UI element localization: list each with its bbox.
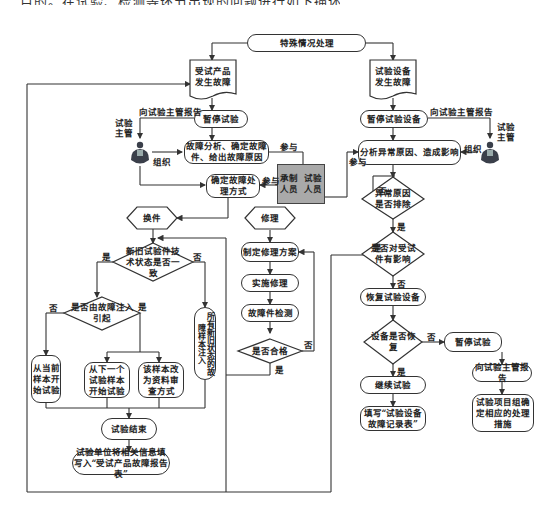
- supervisor-icon-right: [481, 142, 499, 164]
- pause-test-node: 暂停试验: [194, 110, 248, 128]
- label-supervisor-left: 试验 主管: [115, 118, 133, 138]
- fault-injection-diamond: 是否由故障注入引起: [70, 302, 134, 324]
- label-organize-right: 组织: [464, 144, 482, 154]
- repair-hex-label: 修理: [255, 207, 285, 229]
- label-no-qualified: 否: [304, 340, 313, 350]
- start-node: 特殊情况处理: [247, 34, 366, 52]
- pause-equip-node: 暂停试验设备: [360, 110, 428, 128]
- label-yes-affects: 是: [373, 243, 382, 253]
- label-report-left: 向试验主管报告: [139, 107, 202, 117]
- fault-analysis-node: 故障分析、确定故障件、给出故障原因: [184, 140, 269, 164]
- participants-box: 承制 人员 试验 人员: [277, 164, 325, 204]
- label-yes-restored: 是: [397, 367, 406, 377]
- determine-method-node: 确定故障处理方式: [206, 174, 260, 198]
- label-yes-qualified: 是: [275, 365, 284, 375]
- label-no-tech: 否: [193, 252, 202, 262]
- test-end-node: 试验结束: [101, 418, 157, 440]
- restore-equip-node: 恢复试验设备: [360, 288, 426, 306]
- replace-hex-label: 换件: [137, 207, 167, 229]
- from-current-node: 从当前样本开始试验: [31, 355, 61, 403]
- label-participate-1: 参与: [280, 142, 298, 152]
- label-yes-abnormal: 是: [397, 222, 406, 232]
- fill-equip-log-node: 填写“试验设备故障记录表”: [360, 406, 426, 431]
- label-yes-tech: 是: [102, 252, 111, 262]
- from-next-node: 从下一个试验样本开始试验: [84, 362, 130, 398]
- label-supervisor-right: 试验 主管: [497, 122, 515, 142]
- qualified-diamond: 是否合格: [246, 345, 294, 357]
- label-participate-3: 参与: [349, 157, 367, 167]
- test-staff: 试验 人员: [304, 173, 322, 195]
- manufacturer-staff: 承制 人员: [280, 173, 298, 195]
- fault-check-node: 故障件检测: [241, 304, 299, 322]
- do-repair-node: 实施修理: [241, 274, 299, 292]
- tech-state-diamond: 新旧试验件技术状态是否一致: [123, 250, 183, 274]
- report-supervisor-node: 向试验主管报告: [472, 364, 532, 382]
- pause-test-2-node: 暂停试验: [444, 332, 502, 352]
- product-fault-doc: 受试产品发生故障: [191, 62, 235, 92]
- label-no-restored: 否: [427, 332, 436, 342]
- analyze-abnormal-node: 分析异常原因、造成影响: [358, 140, 461, 165]
- label-organize-left: 组织: [153, 157, 171, 167]
- supervisor-icon-left: [131, 142, 149, 164]
- fill-report-node: 试验单位将相关信息填写入“受试产品故障报告表”: [72, 451, 170, 475]
- to-review-node: 该样本改为资料审查方式: [138, 362, 184, 398]
- label-report-right: 向试验主管报告: [430, 107, 493, 117]
- all-inject-node: 所有新旧状态的故障样本注入: [194, 307, 216, 380]
- equip-fault-doc: 试验设备发生故障: [371, 62, 415, 92]
- label-participate-2: 参与: [262, 176, 280, 186]
- label-yes-inject: 是: [138, 302, 147, 312]
- label-no-inject: 否: [49, 303, 58, 313]
- equip-restored-diamond: 设备是否恢复: [368, 336, 418, 348]
- label-no-abnormal: 否: [378, 186, 387, 196]
- continue-test-node: 继续试验: [360, 376, 426, 394]
- repair-plan-node: 制定修理方案: [241, 242, 299, 262]
- team-decide-node: 试验项目组确定相应的处理措施: [472, 394, 534, 432]
- label-no-affects: 否: [397, 279, 406, 289]
